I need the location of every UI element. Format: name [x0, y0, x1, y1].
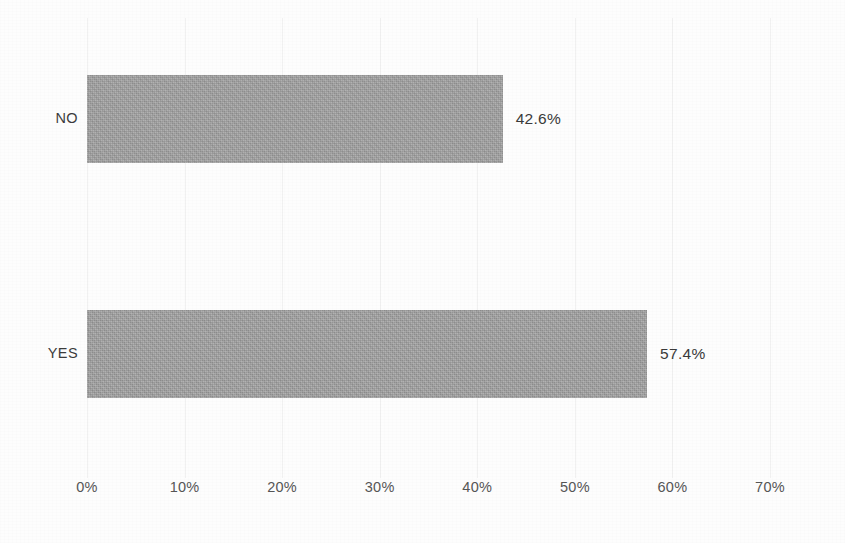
x-tick-20: 20%: [267, 479, 297, 495]
gridline-60: [672, 18, 673, 478]
gridline-70: [770, 18, 771, 478]
x-tick-60: 60%: [657, 479, 687, 495]
x-tick-30: 30%: [365, 479, 395, 495]
gridline-50: [575, 18, 576, 478]
plot-area: 42.6% 57.4%: [87, 18, 770, 478]
bar-no: [87, 75, 503, 163]
x-tick-0: 0%: [76, 479, 98, 495]
bar-chart: NO YES 42.6% 57.4% 0% 10% 20% 30% 40% 50…: [0, 0, 845, 543]
x-axis: 0% 10% 20% 30% 40% 50% 60% 70%: [87, 479, 770, 509]
data-label-yes: 57.4%: [660, 345, 705, 363]
category-label-no: NO: [55, 110, 78, 126]
x-tick-40: 40%: [462, 479, 492, 495]
bar-yes: [87, 310, 647, 398]
x-tick-70: 70%: [755, 479, 785, 495]
category-axis: NO YES: [0, 18, 78, 478]
x-tick-10: 10%: [170, 479, 200, 495]
category-label-yes: YES: [48, 345, 78, 361]
data-label-no: 42.6%: [516, 110, 561, 128]
x-tick-50: 50%: [560, 479, 590, 495]
